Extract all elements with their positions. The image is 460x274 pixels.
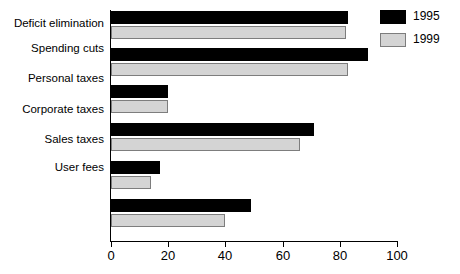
bar-1999 — [111, 63, 348, 76]
bar-1995 — [111, 48, 368, 61]
x-axis-tick-label: 60 — [276, 248, 290, 263]
category-label-user-fees: User fees — [55, 161, 104, 173]
bar-1995 — [111, 161, 160, 174]
horizontal-bar-chart: Deficit elimination Spending cuts Person… — [0, 0, 460, 274]
legend-label-1995: 1995 — [413, 9, 440, 23]
x-axis-tick-label: 80 — [333, 248, 347, 263]
x-axis-tick-label: 20 — [161, 248, 175, 263]
x-axis-tick — [168, 242, 169, 247]
bar-1999 — [111, 26, 346, 39]
category-label-spending-cuts: Spending cuts — [31, 42, 104, 54]
x-axis-tick-label: 100 — [386, 248, 408, 263]
bar-1995 — [111, 85, 168, 98]
legend-swatch-gray-icon — [380, 33, 406, 47]
legend-swatch-black-icon — [380, 10, 406, 24]
bar-1999 — [111, 100, 168, 113]
category-label-corporate-taxes: Corporate taxes — [22, 103, 104, 115]
category-label-personal-taxes: Personal taxes — [28, 72, 104, 84]
x-axis-tick — [283, 242, 284, 247]
category-label-deficit-elimination: Deficit elimination — [14, 17, 104, 29]
category-axis-labels: Deficit elimination Spending cuts Person… — [0, 0, 112, 274]
x-axis-tick-label: 0 — [107, 248, 114, 263]
bar-1999 — [111, 214, 225, 227]
bar-1999 — [111, 176, 151, 189]
bar-1995 — [111, 123, 314, 136]
bar-1999 — [111, 138, 300, 151]
x-axis-tick — [397, 242, 398, 247]
x-axis-tick — [225, 242, 226, 247]
x-axis-tick-label: 40 — [218, 248, 232, 263]
legend-label-1999: 1999 — [413, 32, 440, 46]
category-label-sales-taxes: Sales taxes — [45, 133, 104, 145]
bar-1995 — [111, 11, 348, 24]
x-axis-tick — [340, 242, 341, 247]
y-axis-line — [110, 10, 111, 242]
bar-1995 — [111, 199, 251, 212]
x-axis-tick — [111, 242, 112, 247]
plot-area — [111, 11, 397, 239]
x-axis-line — [110, 241, 398, 242]
